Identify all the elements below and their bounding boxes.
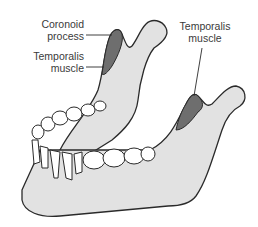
label-temporalis-left: Temporalis muscle xyxy=(18,50,84,74)
label-temporalis-right: Temporalis muscle xyxy=(170,20,240,44)
label-coronoid-process: Coronoid process xyxy=(28,18,84,42)
